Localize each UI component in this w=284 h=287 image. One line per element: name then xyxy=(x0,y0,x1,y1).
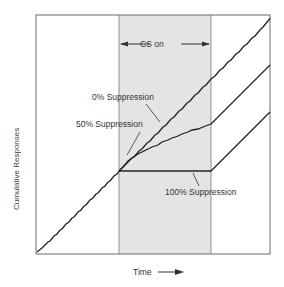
line-baseline xyxy=(37,171,119,252)
label-100-suppression: 100% Suppression xyxy=(165,188,236,197)
y-axis-label: Cumulative Responses xyxy=(12,128,21,210)
time-arrow-icon xyxy=(175,269,184,275)
x-axis-label: Time xyxy=(133,268,152,277)
cs-shaded-region xyxy=(119,15,211,254)
cs-on-label: CS on xyxy=(140,40,164,49)
label-0-suppression: 0% Suppression xyxy=(92,93,154,102)
label-50-suppression: 50% Suppression xyxy=(76,120,143,129)
